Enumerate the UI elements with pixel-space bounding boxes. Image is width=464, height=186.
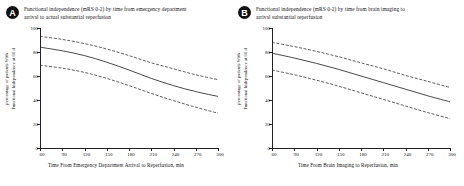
panel-a-x-tick-labels: 6090120150180210240270300 (40, 152, 218, 161)
panel-b-x-tick-60: 60 (272, 152, 277, 157)
panel-a-series-predicted-probability (40, 47, 218, 96)
panel-a-x-tickmark-270 (196, 148, 197, 151)
panel-b-curves (272, 28, 450, 148)
panel-b-x-tickmark-210 (383, 148, 384, 151)
panel-a-x-tickmark-300 (218, 148, 219, 151)
panel-a-y-axis-label-line2: Functional Independence at 90 d (11, 27, 18, 131)
panel-a-y-axis-label: percentage of patients With Functional I… (4, 27, 18, 131)
panel-a: A Functional independence (mRS 0-2) by t… (0, 0, 232, 186)
panel-a-x-tick-180: 180 (127, 152, 135, 157)
panel-b-header: B Functional independence (mRS 0-2) by t… (238, 6, 460, 21)
panel-b-x-tickmark-60 (272, 148, 273, 151)
panel-a-x-tick-60: 60 (40, 152, 45, 157)
panel-a-header: A Functional independence (mRS 0-2) by t… (6, 6, 228, 21)
panel-a-x-tick-120: 120 (83, 152, 91, 157)
panel-b-x-tickmark-150 (339, 148, 340, 151)
panel-b-x-tick-180: 180 (359, 152, 367, 157)
panel-b-x-axis-label: Time From Brain Imaging to Reperfusion, … (232, 162, 464, 168)
panel-a-title: Functional independence (mRS 0-2) by tim… (24, 6, 187, 21)
panel-a-x-tickmark-90 (62, 148, 63, 151)
panel-a-title-line2: arrival to actual substantial reperfusio… (24, 14, 187, 22)
figure-container: A Functional independence (mRS 0-2) by t… (0, 0, 464, 186)
panel-a-x-tick-150: 150 (105, 152, 113, 157)
panel-b-badge: B (238, 6, 251, 19)
panel-b-x-tick-240: 240 (404, 152, 412, 157)
panel-a-series-upper-95-ci (40, 36, 218, 79)
panel-a-x-tickmark-120 (85, 148, 86, 151)
panel-b-y-axis-label-line2: Functional Independence at 90 d (243, 27, 250, 131)
panel-b-title-line2: arrival substantial reperfusion (256, 14, 405, 22)
panel-b-y-axis-label-line1: percentage of patients With (236, 53, 241, 105)
panel-b-title: Functional independence (mRS 0-2) by tim… (256, 6, 405, 21)
panel-a-curves (40, 28, 218, 148)
panel-b-x-tickmark-300 (450, 148, 451, 151)
panel-b-series-predicted-probability (272, 53, 450, 102)
panel-a-x-tickmark-180 (129, 148, 130, 151)
panel-a-y-tick-labels: 020406080100 (22, 26, 38, 148)
panel-b-plot: percentage of patients With Functional I… (232, 26, 464, 161)
panel-b-x-tick-150: 150 (337, 152, 345, 157)
panel-b-x-tick-270: 270 (426, 152, 434, 157)
panel-a-badge: A (6, 6, 19, 19)
panel-a-y-axis-label-line1: percentage of patients With (4, 53, 9, 105)
panel-a-series-lower-95-ci (40, 65, 218, 113)
panel-b-title-line1: Functional independence (mRS 0-2) by tim… (256, 6, 405, 12)
panel-a-x-axis-label: Time From Emergency Department Arrival t… (0, 162, 232, 168)
panel-a-plot: percentage of patients With Functional I… (0, 26, 232, 161)
panel-a-x-tick-210: 210 (150, 152, 158, 157)
panel-b-x-tick-90: 90 (294, 152, 299, 157)
panel-b-x-tickmark-120 (317, 148, 318, 151)
panel-a-x-tickmark-240 (174, 148, 175, 151)
panel-b-series-upper-95-ci (272, 42, 450, 87)
panel-b-x-tick-120: 120 (315, 152, 323, 157)
panel-a-x-tick-240: 240 (172, 152, 180, 157)
panel-a-x-tick-300: 300 (216, 152, 224, 157)
panel-a-x-tick-90: 90 (62, 152, 67, 157)
panel-b-x-tickmark-90 (294, 148, 295, 151)
panel-a-x-tick-270: 270 (194, 152, 202, 157)
panel-b-x-tick-300: 300 (448, 152, 456, 157)
panel-b-y-axis-label: percentage of patients With Functional I… (236, 27, 250, 131)
panel-b-x-tick-labels: 6090120150180210240270300 (272, 152, 450, 161)
panel-b-x-tickmark-270 (428, 148, 429, 151)
panel-b-x-tickmark-240 (406, 148, 407, 151)
panel-b: B Functional independence (mRS 0-2) by t… (232, 0, 464, 186)
panel-b-y-tick-labels: 020406080100 (254, 26, 270, 148)
panel-a-x-tickmark-210 (151, 148, 152, 151)
panel-b-x-tick-210: 210 (382, 152, 390, 157)
panel-a-x-tickmark-60 (40, 148, 41, 151)
panel-a-title-line1: Functional independence (mRS 0-2) by tim… (24, 6, 187, 12)
panel-a-x-tickmark-150 (107, 148, 108, 151)
panel-b-x-tickmark-180 (361, 148, 362, 151)
